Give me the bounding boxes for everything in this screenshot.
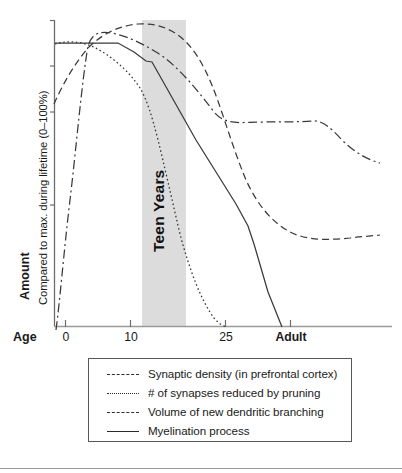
teen-years-label: Teen Years	[150, 170, 168, 252]
legend-item-dendritic-branching: Volume of new dendritic branching	[89, 402, 351, 421]
series-synaptic-density	[56, 32, 380, 330]
legend-item-synapse-pruning: # of synapses reduced by pruning	[89, 383, 351, 402]
legend-item-myelination: Myelination process	[89, 421, 351, 440]
y-axis-subtitle: Compared to max. during lifetime (0–100%…	[38, 91, 49, 305]
legend-line-solid-icon	[107, 426, 139, 436]
legend-item-synaptic-density: Synaptic density (in prefrontal cortex)	[89, 364, 351, 383]
legend-label-myelination: Myelination process	[148, 424, 250, 437]
legend-list: Synaptic density (in prefrontal cortex) …	[89, 359, 351, 441]
y-axis-title-group: Amount Compared to max. during lifetime …	[0, 0, 52, 330]
x-tick-label-25: 25	[211, 330, 241, 344]
x-axis-title: Age	[13, 330, 37, 344]
legend-line-dashdot-icon	[107, 369, 139, 379]
legend-label-dendritic-branching: Volume of new dendritic branching	[148, 405, 324, 418]
legend-line-dashed-icon	[107, 407, 139, 417]
legend-line-dotted-icon	[107, 388, 139, 398]
x-tick-label-0: 0	[52, 330, 80, 344]
x-tick-label-adult: Adult	[265, 330, 317, 344]
chart-legend: Synaptic density (in prefrontal cortex) …	[88, 358, 352, 442]
series-synapse-pruning	[55, 42, 226, 327]
y-axis-title: Amount	[19, 252, 32, 300]
series-dendritic-branching	[54, 24, 380, 239]
footer-divider	[0, 468, 402, 469]
legend-label-synaptic-density: Synaptic density (in prefrontal cortex)	[148, 367, 337, 380]
x-tick-label-10: 10	[116, 330, 146, 344]
legend-label-synapse-pruning: # of synapses reduced by pruning	[148, 386, 320, 399]
brain-development-figure: Amount Compared to max. during lifetime …	[0, 0, 402, 473]
